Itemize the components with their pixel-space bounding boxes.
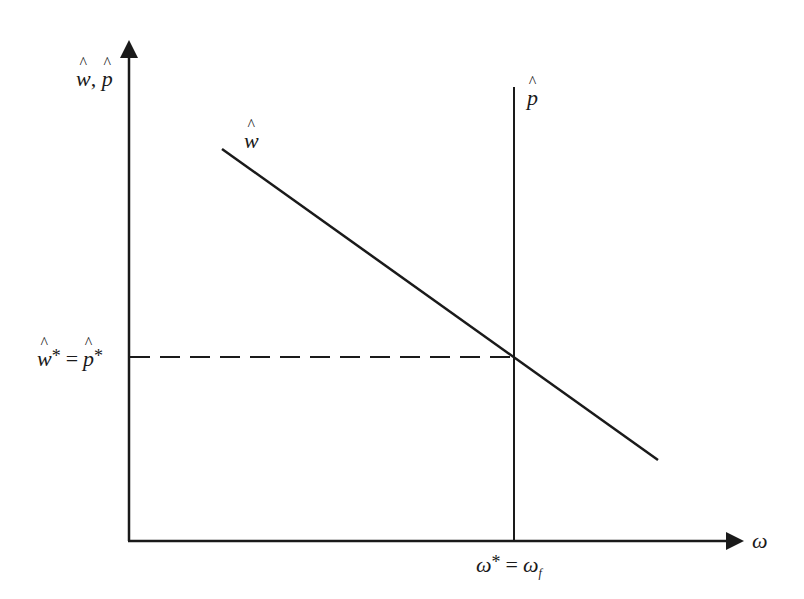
eq-w-symbol: w — [37, 348, 52, 370]
p-hat-curve-label: p — [527, 87, 538, 109]
omega-star: * — [492, 552, 501, 572]
eq-w-star: * — [52, 346, 61, 366]
x-axis-label: ω — [752, 530, 768, 552]
equilibrium-diagram — [0, 0, 804, 599]
omega-symbol: ω — [476, 552, 492, 577]
x-axis-omega: ω — [752, 528, 768, 553]
y-axis-label-comma: , — [91, 66, 97, 91]
omega-f-subscript: f — [539, 566, 542, 580]
equilibrium-price-label: w*=p* — [37, 347, 103, 370]
omega-equals: = — [501, 552, 523, 577]
w-hat-symbol: w — [244, 130, 259, 152]
x-axis-arrowhead-icon — [726, 532, 744, 550]
equilibrium-omega-label: ω*=ωf — [476, 553, 542, 579]
y-axis-label-w: w — [76, 68, 91, 90]
y-axis-label-p: p — [102, 68, 113, 90]
y-axis-arrowhead-icon — [120, 40, 138, 58]
y-axis-label: w, p — [76, 68, 113, 90]
eq-p-symbol: p — [83, 348, 94, 370]
eq-equals: = — [61, 346, 83, 371]
eq-p-star: * — [94, 346, 103, 366]
p-hat-symbol: p — [527, 87, 538, 109]
omega-f-symbol: ω — [523, 552, 539, 577]
w-hat-curve-label: w — [244, 130, 259, 152]
w-hat-line — [222, 149, 658, 460]
